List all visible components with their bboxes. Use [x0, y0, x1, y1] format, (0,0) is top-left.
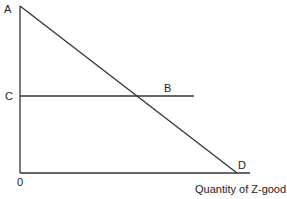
label-a: A [4, 3, 12, 15]
line-a-to-d [20, 6, 237, 173]
x-axis-label: Quantity of Z-good [195, 183, 286, 195]
label-b: B [164, 82, 171, 94]
label-origin: 0 [17, 176, 23, 188]
label-d: D [238, 159, 246, 171]
label-c: C [5, 90, 13, 102]
diagram-canvas: A C B D 0 Quantity of Z-good [0, 0, 287, 199]
